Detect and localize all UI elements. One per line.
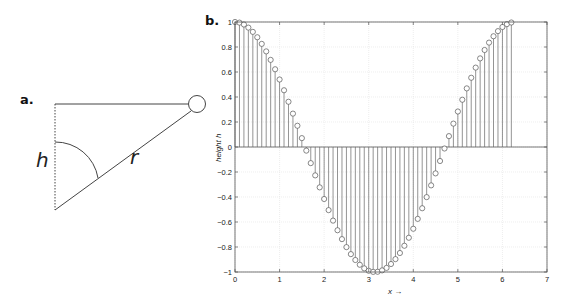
stem-marker (330, 218, 335, 223)
stem-marker (357, 262, 362, 267)
angle-arc (55, 142, 98, 178)
stem-marker (442, 146, 447, 151)
stem-marker (344, 245, 349, 250)
x-tick-label: 7 (545, 275, 549, 284)
y-tick-label: −0.4 (217, 193, 232, 202)
stem-marker (273, 67, 278, 72)
stem-marker (437, 158, 442, 163)
stem-marker (277, 77, 282, 82)
stem-marker (388, 261, 393, 266)
stem-marker (433, 171, 438, 176)
stem-marker (384, 265, 389, 270)
stem-marker (259, 41, 264, 46)
stem-marker (255, 35, 260, 40)
stem-marker (451, 121, 456, 126)
stem-marker (420, 206, 425, 211)
radius-line (55, 111, 191, 210)
stem-marker (482, 47, 487, 52)
y-tick-label: 1 (228, 18, 232, 27)
stem-marker (411, 226, 416, 231)
stem-marker (402, 243, 407, 248)
x-tick-label: 0 (233, 275, 237, 284)
panel-b-label: b. (205, 13, 219, 28)
y-tick-label: 0.6 (222, 68, 232, 77)
stem-marker (393, 257, 398, 262)
stem-marker (308, 161, 313, 166)
pendulum-bob (189, 96, 206, 113)
stem-marker (473, 65, 478, 70)
stem-marker (406, 235, 411, 240)
stem-marker (326, 208, 331, 213)
y-tick-label: 0.8 (222, 43, 232, 52)
stem-marker (455, 109, 460, 114)
stem-marker (335, 228, 340, 233)
x-tick-label: 1 (277, 275, 281, 284)
stem-marker (469, 75, 474, 80)
x-tick-label: 4 (411, 275, 415, 284)
stem-marker (313, 173, 318, 178)
y-tick-label: 0.2 (222, 118, 232, 127)
stem-marker (304, 148, 309, 153)
stem-marker (486, 40, 491, 45)
y-tick-label: −0.8 (217, 243, 232, 252)
stem-marker (281, 88, 286, 93)
stem-marker (353, 257, 358, 262)
stem-marker (429, 183, 434, 188)
stem-marker (299, 136, 304, 141)
stem-marker (424, 195, 429, 200)
stem-marker (478, 56, 483, 61)
panel-a-label: a. (20, 92, 34, 107)
y-tick-label: 0.4 (222, 93, 232, 102)
y-axis-label: height h (214, 133, 223, 162)
y-tick-label: 0 (228, 143, 232, 152)
stem-marker (464, 86, 469, 91)
x-tick-label: 2 (322, 275, 326, 284)
stem-marker (415, 216, 420, 221)
panel-a-diagram: a. h r (20, 92, 206, 210)
panel-b-chart: b. 01234567 10.80.60.40.20−0.2−0.4−0.6−0… (205, 13, 549, 296)
stem-marker (295, 123, 300, 128)
stem-marker (268, 57, 273, 62)
stem-marker (460, 97, 465, 102)
stem-marker (264, 49, 269, 54)
stem-marker (322, 196, 327, 201)
figure: a. h r b. 01234567 10.80.60.40.20−0.2−0.… (0, 0, 568, 300)
y-tick-label: −0.6 (217, 218, 232, 227)
stem-marker (491, 34, 496, 39)
y-tick-label: −1 (223, 268, 232, 277)
stem-marker (509, 20, 514, 25)
stem-marker (348, 252, 353, 257)
y-tick-label: −0.2 (217, 168, 232, 177)
stem-marker (246, 25, 251, 30)
h-label: h (36, 148, 49, 172)
stem-marker (290, 111, 295, 116)
stem-marker (250, 29, 255, 34)
stem-marker (397, 250, 402, 255)
x-axis-label: x → (387, 287, 402, 296)
stem-marker (317, 185, 322, 190)
stem-marker (495, 29, 500, 34)
x-tick-label: 6 (500, 275, 504, 284)
stem-marker (286, 99, 291, 104)
stem-marker (339, 237, 344, 242)
x-tick-label: 5 (456, 275, 460, 284)
stem-marker (446, 134, 451, 139)
x-tick-label: 3 (367, 275, 371, 284)
